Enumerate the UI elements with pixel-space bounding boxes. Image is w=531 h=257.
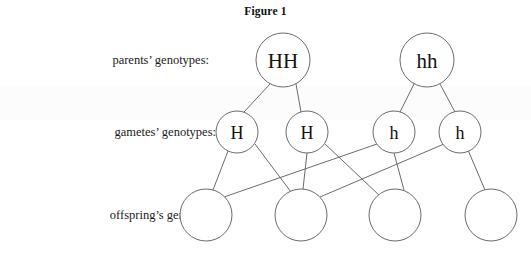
edge-parent-hh-dominant-to-gamete-h-1	[244, 84, 270, 112]
gamete-node-4[interactable]: h	[439, 111, 481, 153]
gamete-node-label-4: h	[456, 123, 465, 143]
parent-node-label-1: HH	[268, 49, 298, 73]
edge-parent-hh-dominant-to-gamete-h-2	[296, 84, 301, 112]
parent-node-label-2: hh	[417, 49, 439, 73]
edge-gamete-h-2-to-offspring-3	[325, 144, 380, 196]
genetics-cross-diagram: HHhhHHhh	[0, 0, 531, 257]
gamete-node-1[interactable]: H	[216, 111, 258, 153]
offspring-node-circle-2[interactable]	[275, 189, 327, 241]
offspring-node-circle-4[interactable]	[465, 189, 517, 241]
edge-parent-hh-recessive-to-gamete-h-3	[400, 84, 414, 112]
edge-gamete-h-4-to-offspring-4	[468, 150, 485, 190]
offspring-node-circle-3[interactable]	[369, 189, 421, 241]
offspring-node-3[interactable]	[369, 189, 421, 241]
gamete-node-label-2: H	[301, 123, 314, 143]
edge-gamete-h-3-to-offspring-3	[394, 153, 404, 190]
edge-gamete-h-1-to-offspring-1	[213, 151, 228, 190]
edge-gamete-h-4-to-offspring-2	[320, 144, 444, 197]
offspring-node-circle-1[interactable]	[180, 189, 232, 241]
offspring-node-2[interactable]	[275, 189, 327, 241]
gamete-node-2[interactable]: H	[286, 111, 328, 153]
offspring-node-1[interactable]	[180, 189, 232, 241]
offspring-node-4[interactable]	[465, 189, 517, 241]
gamete-node-3[interactable]: h	[373, 111, 415, 153]
gamete-node-label-1: H	[231, 123, 244, 143]
parent-node-2[interactable]: hh	[400, 33, 454, 87]
nodes-layer: HHhhHHhh	[180, 33, 517, 241]
figure-container: Figure 1 parents’ genotypes: gametes’ ge…	[0, 0, 531, 257]
gamete-node-label-3: h	[390, 123, 399, 143]
parent-node-1[interactable]: HH	[256, 33, 310, 87]
edge-gamete-h-2-to-offspring-2	[303, 153, 307, 189]
edge-parent-hh-recessive-to-gamete-h-4	[440, 84, 455, 112]
